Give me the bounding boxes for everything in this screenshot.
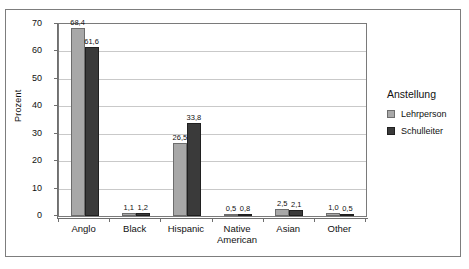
x-axis-tick <box>160 218 161 222</box>
legend-swatch-icon <box>387 110 395 118</box>
legend-item-label: Lehrperson <box>401 109 447 119</box>
bar-value-label: 0,8 <box>240 205 250 213</box>
x-axis-tick <box>212 218 213 222</box>
x-axis-tick <box>58 218 59 222</box>
bar-value-label: 0,5 <box>226 205 236 213</box>
y-axis-tick-label: 40 <box>32 101 42 110</box>
gridline <box>59 161 366 162</box>
bar-value-label: 2,1 <box>291 201 301 209</box>
bar <box>340 214 354 216</box>
chart-frame: Prozent 010203040506070 68,41,126,50,52,… <box>5 9 461 257</box>
x-axis-category-label: Hispanic <box>160 224 211 235</box>
x-axis-category-label: Other <box>314 224 365 235</box>
plot-area: 68,41,126,50,52,51,061,61,233,80,82,10,5 <box>58 23 367 217</box>
gridline <box>59 106 366 107</box>
x-axis-category-label: NativeAmerican <box>212 224 263 245</box>
gridline <box>59 189 366 190</box>
x-axis-tick <box>263 218 264 222</box>
y-axis-title: Prozent <box>13 90 23 122</box>
bar <box>136 213 150 216</box>
bar-value-label: 1,0 <box>328 204 338 212</box>
bar <box>275 209 289 216</box>
legend-item-label: Schulleiter <box>401 126 443 136</box>
gridline <box>59 79 366 80</box>
legend: Anstellung LehrpersonSchulleiter <box>387 88 459 143</box>
bar <box>238 214 252 216</box>
bar <box>122 213 136 216</box>
bar <box>326 213 340 216</box>
bar-value-label: 2,5 <box>277 200 287 208</box>
legend-item: Lehrperson <box>387 109 459 119</box>
bar <box>224 214 238 216</box>
bar <box>85 47 99 216</box>
legend-item: Schulleiter <box>387 126 459 136</box>
y-axis-tick-label: 20 <box>32 156 42 165</box>
bar-value-label: 1,2 <box>138 204 148 212</box>
x-axis-tick <box>109 218 110 222</box>
x-axis-category-label: Black <box>109 224 160 235</box>
y-axis-tick-label: 70 <box>32 19 42 28</box>
bar <box>187 123 201 216</box>
y-axis-tick-label: 0 <box>37 211 42 220</box>
bar-value-label: 26,5 <box>173 134 188 142</box>
x-axis-category-label: Anglo <box>58 224 109 235</box>
y-axis-tick-label: 60 <box>32 46 42 55</box>
y-axis-tick-label: 30 <box>32 128 42 137</box>
gridline <box>59 134 366 135</box>
bar-value-label: 0,5 <box>342 205 352 213</box>
bar <box>71 28 85 216</box>
bar <box>289 210 303 216</box>
bar-value-label: 61,6 <box>84 38 99 46</box>
gridline <box>59 51 366 52</box>
bar-value-label: 1,1 <box>124 204 134 212</box>
legend-items: LehrpersonSchulleiter <box>387 109 459 136</box>
y-axis-tick-label: 10 <box>32 183 42 192</box>
x-axis-tick <box>365 218 366 222</box>
legend-title: Anstellung <box>387 88 459 100</box>
x-axis-line <box>58 218 368 219</box>
bar-value-label: 33,8 <box>187 114 202 122</box>
bar-value-label: 68,4 <box>70 19 85 27</box>
x-axis-tick <box>314 218 315 222</box>
bar <box>173 143 187 216</box>
x-axis-category-label: Asian <box>263 224 314 235</box>
y-axis-tick-label: 50 <box>32 73 42 82</box>
legend-swatch-icon <box>387 127 395 135</box>
